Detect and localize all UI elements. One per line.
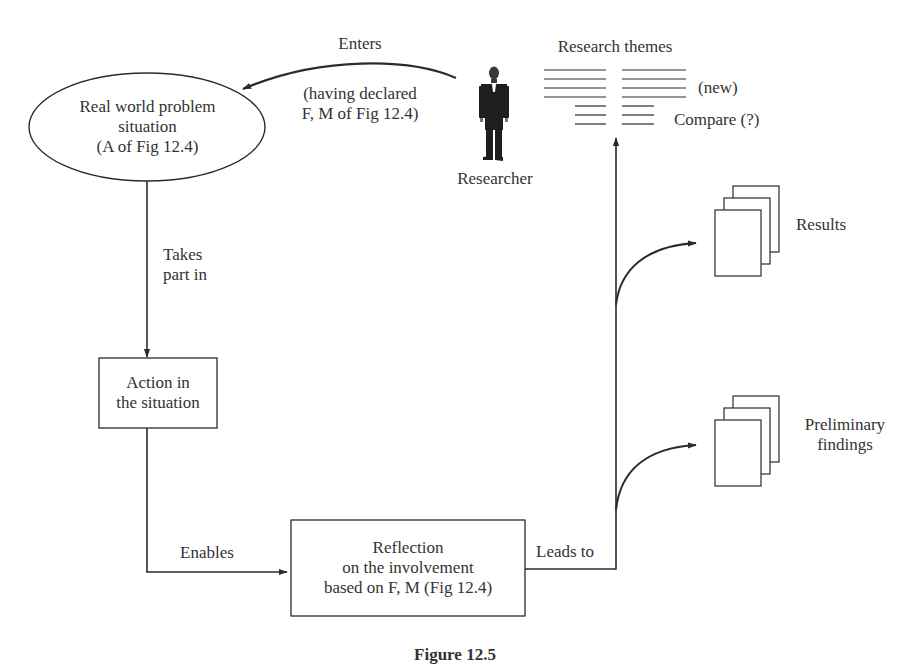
leads-to-label: Leads to (536, 542, 594, 562)
takes-part-in-label: Takes part in (163, 245, 207, 285)
action-line1: Action in (99, 373, 217, 393)
takes-part-in-line2: part in (163, 265, 207, 285)
preliminary-findings-line2: findings (790, 435, 900, 455)
findings-documents-icon (715, 396, 779, 486)
enters-sublabel: (having declared F, M of Fig 12.4) (280, 84, 440, 124)
reflection-line3: based on F, M (Fig 12.4) (291, 578, 525, 598)
enables-label: Enables (180, 543, 234, 563)
research-themes-lines-icon (544, 70, 686, 124)
enters-sublabel-line2: F, M of Fig 12.4) (280, 104, 440, 124)
reflection-node: Reflection on the involvement based on F… (291, 538, 525, 598)
real-world-line1: Real world problem (40, 97, 255, 117)
reflection-line1: Reflection (291, 538, 525, 558)
real-world-line3: (A of Fig 12.4) (40, 137, 255, 157)
research-themes-compare-label: Compare (?) (674, 110, 759, 130)
researcher-label: Researcher (430, 169, 560, 189)
reflection-line2: on the involvement (291, 558, 525, 578)
researcher-person-icon (479, 67, 509, 162)
takes-part-in-line1: Takes (163, 245, 207, 265)
findings-branch-arrow (616, 445, 696, 510)
figure-caption: Figure 12.5 (380, 645, 530, 665)
research-themes-new-label: (new) (698, 78, 738, 98)
real-world-node: Real world problem situation (A of Fig 1… (40, 97, 255, 157)
results-documents-icon (715, 186, 779, 276)
enters-label: Enters (300, 34, 420, 54)
preliminary-findings-line1: Preliminary (790, 415, 900, 435)
results-label: Results (796, 215, 846, 235)
action-node: Action in the situation (99, 373, 217, 413)
leads-to-arrow (525, 138, 616, 569)
results-branch-arrow (616, 243, 696, 305)
preliminary-findings-label: Preliminary findings (790, 415, 900, 455)
real-world-line2: situation (40, 117, 255, 137)
action-line2: the situation (99, 393, 217, 413)
research-themes-title: Research themes (520, 37, 710, 57)
enters-sublabel-line1: (having declared (280, 84, 440, 104)
